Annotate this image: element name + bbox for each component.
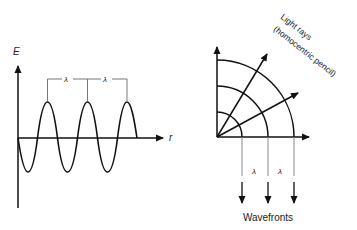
wavefronts-label: Wavefronts — [243, 212, 293, 223]
wavelength-label-4: λ — [277, 167, 282, 176]
wavefront-diagram: Light rays (homocentric pencil) λ λ Wave… — [217, 12, 338, 223]
wave-diagram-figure: E r λ λ Light rays (homocentric pencil) — [0, 0, 357, 230]
wavelength-label-1: λ — [63, 75, 68, 84]
wavefront-arc-3 — [217, 60, 294, 137]
wavefront-arrows — [242, 182, 294, 203]
light-rays-label: Light rays (homocentric pencil) — [272, 12, 339, 79]
r-axis-label: r — [169, 132, 173, 143]
sine-wave-plot: E r λ λ — [13, 46, 173, 208]
wavefront-guides — [242, 137, 294, 176]
wavelength-label-3: λ — [251, 167, 256, 176]
wavelength-label-2: λ — [102, 75, 107, 84]
e-axis-label: E — [13, 46, 20, 57]
light-ray-1 — [217, 54, 267, 137]
wavelength-brackets — [48, 79, 128, 101]
sine-wave — [18, 102, 137, 172]
